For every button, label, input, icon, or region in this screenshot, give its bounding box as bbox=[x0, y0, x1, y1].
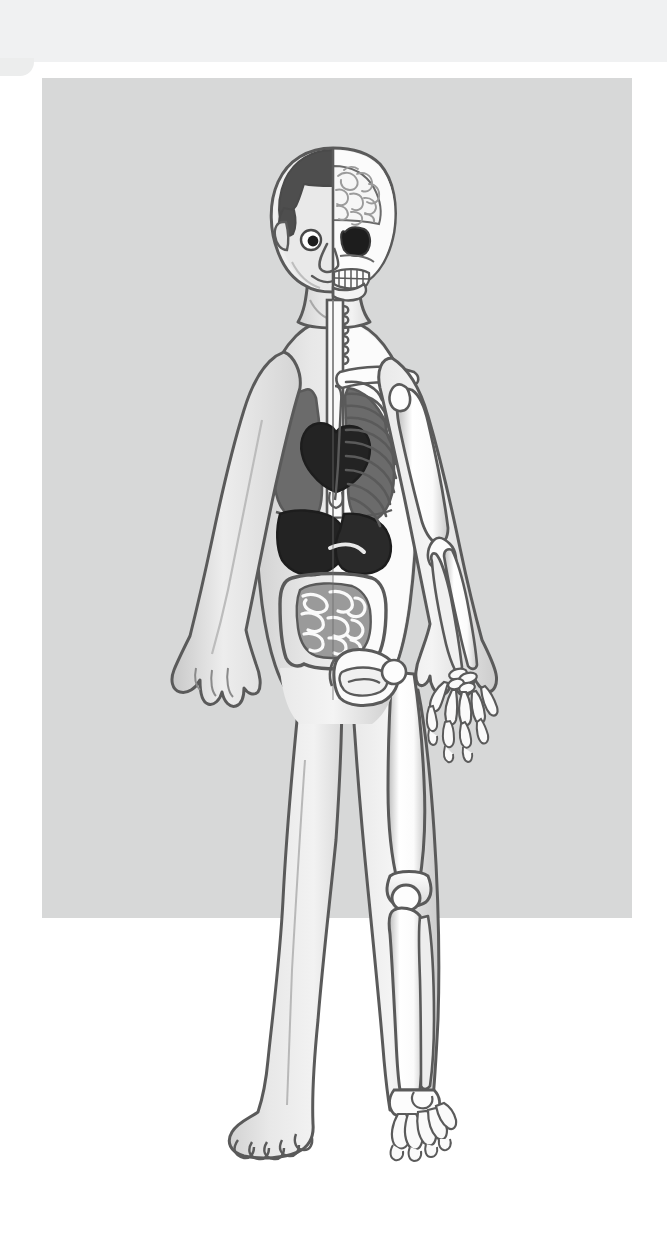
phalanx-2 bbox=[460, 722, 471, 748]
phalanx-thumb-distal bbox=[428, 730, 437, 745]
metacarpal-2 bbox=[459, 692, 471, 726]
phalanx-1 bbox=[443, 721, 454, 747]
pelvic-inlet bbox=[340, 668, 388, 696]
toe-phalanx-3 bbox=[425, 1144, 437, 1157]
phalanx-2-distal bbox=[463, 747, 473, 762]
humeral-head bbox=[389, 384, 410, 411]
anatomy-figure-svg bbox=[0, 0, 667, 1247]
toe-phalanx-4 bbox=[439, 1139, 451, 1150]
phalanx-1-distal bbox=[444, 746, 453, 762]
left-leg-shape bbox=[229, 690, 342, 1158]
head-group bbox=[271, 148, 395, 300]
femoral-head bbox=[382, 660, 406, 684]
femur-bone bbox=[388, 672, 425, 889]
figure-stage bbox=[0, 0, 667, 1247]
toe-phalanx-2 bbox=[409, 1147, 422, 1161]
fibula-bone bbox=[419, 916, 434, 1089]
left-leg-external bbox=[229, 690, 342, 1159]
illustration-page: Human Body — External and Internal Anato… bbox=[0, 0, 667, 1247]
left-eye-pupil bbox=[308, 236, 319, 247]
phalanx-3 bbox=[477, 719, 488, 744]
metacarpal-1 bbox=[445, 690, 457, 725]
eye-socket bbox=[341, 227, 370, 256]
right-leg-skeletal bbox=[352, 672, 456, 1161]
